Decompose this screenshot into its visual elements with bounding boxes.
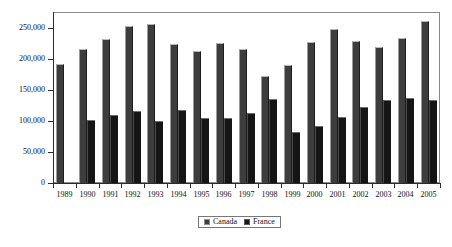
chart-legend: Canada France — [198, 216, 281, 228]
x-axis-tick — [235, 184, 236, 188]
x-axis-tick-label: 2001 — [326, 190, 349, 199]
bar-canada — [421, 21, 429, 183]
y-axis-tick-label: 0 — [0, 179, 45, 187]
bar-canada — [193, 51, 201, 183]
bar-canada — [147, 24, 155, 183]
bar-france — [110, 115, 118, 183]
bar-canada — [330, 29, 338, 183]
legend-swatch-canada-icon — [204, 219, 210, 225]
bar-france — [406, 98, 414, 183]
x-axis-tick-label: 1998 — [258, 190, 281, 199]
x-axis-tick — [121, 184, 122, 188]
bar-canada — [170, 44, 178, 183]
x-axis-tick-label: 1995 — [190, 190, 213, 199]
bar-canada — [398, 38, 406, 183]
bar-france — [292, 132, 300, 183]
y-axis-tick-label: 50,000 — [0, 148, 45, 156]
x-axis-tick — [144, 184, 145, 188]
x-axis-tick-label: 1997 — [235, 190, 258, 199]
y-axis-tick — [48, 152, 53, 153]
x-axis-tick-label: 1990 — [76, 190, 99, 199]
y-axis-tick — [48, 121, 53, 122]
x-axis-tick-label: 2005 — [417, 190, 440, 199]
bar-france — [315, 126, 323, 183]
x-axis-tick-label: 2003 — [372, 190, 395, 199]
bar-france — [269, 99, 277, 183]
x-axis-tick-label: 2004 — [394, 190, 417, 199]
x-axis-tick-label: 1992 — [121, 190, 144, 199]
bar-france — [360, 107, 368, 183]
x-axis-tick — [326, 184, 327, 188]
bar-canada — [284, 65, 292, 183]
x-axis-line — [53, 183, 441, 184]
x-axis-tick — [53, 184, 54, 188]
y-axis-tick — [48, 90, 53, 91]
y-axis-tick — [48, 59, 53, 60]
x-axis-tick-label: 1999 — [281, 190, 304, 199]
bar-canada — [239, 49, 247, 183]
x-axis-tick — [417, 184, 418, 188]
x-axis-tick — [212, 184, 213, 188]
x-axis-tick-label: 1989 — [53, 190, 76, 199]
caption-sliver — [6, 240, 446, 247]
bar-canada — [375, 47, 383, 183]
y-axis-tick-label: 150,000 — [0, 86, 45, 94]
x-axis-tick — [99, 184, 100, 188]
x-axis-tick-label: 2002 — [349, 190, 372, 199]
bar-chart: 050,000100,000150,000200,000250,000 1989… — [0, 0, 452, 247]
legend-entry-canada: Canada — [204, 218, 237, 226]
bar-canada — [125, 26, 133, 183]
x-axis-tick-label: 1993 — [144, 190, 167, 199]
x-axis-tick — [190, 184, 191, 188]
legend-entry-france: France — [244, 218, 275, 226]
bar-france — [178, 110, 186, 183]
x-axis-tick — [440, 184, 441, 188]
bar-france — [383, 100, 391, 183]
bar-canada — [102, 39, 110, 183]
legend-label-canada: Canada — [213, 218, 237, 226]
bar-france — [338, 117, 346, 183]
bar-canada — [79, 49, 87, 183]
bar-canada — [216, 43, 224, 183]
y-axis-tick — [48, 28, 53, 29]
bar-france — [87, 120, 95, 183]
y-axis-tick-label: 200,000 — [0, 55, 45, 63]
x-axis-tick — [349, 184, 350, 188]
bar-canada — [261, 76, 269, 183]
bar-france — [133, 111, 141, 183]
x-axis-tick — [303, 184, 304, 188]
x-axis-tick — [394, 184, 395, 188]
x-axis-tick-label: 1996 — [212, 190, 235, 199]
legend-label-france: France — [253, 218, 275, 226]
y-axis-line — [53, 12, 54, 184]
x-axis-tick — [258, 184, 259, 188]
bar-france — [247, 113, 255, 183]
bar-canada — [56, 64, 64, 183]
x-axis-tick — [281, 184, 282, 188]
x-axis-tick-label: 1994 — [167, 190, 190, 199]
bar-france — [155, 121, 163, 183]
x-axis-tick-label: 2000 — [303, 190, 326, 199]
bar-france — [224, 118, 232, 183]
bar-canada — [352, 41, 360, 183]
bar-france — [201, 118, 209, 183]
legend-swatch-france-icon — [244, 219, 250, 225]
y-axis-tick-label: 250,000 — [0, 24, 45, 32]
bar-canada — [307, 42, 315, 183]
bar-france — [429, 100, 437, 183]
y-axis-tick-label: 100,000 — [0, 117, 45, 125]
x-axis-tick — [167, 184, 168, 188]
x-axis-tick — [372, 184, 373, 188]
x-axis-tick-label: 1991 — [99, 190, 122, 199]
x-axis-tick — [76, 184, 77, 188]
